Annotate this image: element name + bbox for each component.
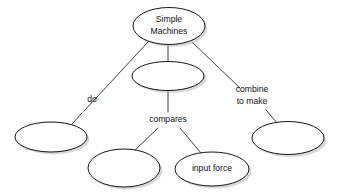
node-input-force[interactable]: input force [175, 152, 249, 186]
node-simple-machines-label-line2: Machines [151, 26, 188, 36]
connector-compares-to-bottom-left [133, 128, 158, 152]
node-simple-machines-label-line1: Simple [156, 14, 182, 24]
node-center-blank-shape[interactable] [132, 62, 204, 91]
node-right-blank-shape[interactable] [252, 122, 324, 155]
node-right-blank[interactable] [252, 122, 324, 155]
edge-label-do: do [87, 94, 97, 104]
node-left-blank[interactable] [15, 122, 87, 152]
node-bottom-left-blank[interactable] [88, 149, 160, 187]
edge-label-combine-to-make-line1: combine [236, 84, 269, 94]
diagram-canvas: Simple Machines input force [0, 0, 342, 195]
node-input-force-label: input force [192, 163, 232, 173]
edge-label-compares: compares [149, 114, 187, 124]
node-center-blank[interactable] [132, 62, 204, 91]
connector-do-tail [72, 113, 82, 124]
node-left-blank-shape[interactable] [15, 122, 87, 152]
node-simple-machines[interactable]: Simple Machines [133, 8, 205, 45]
concept-map-diagram: Simple Machines input force [0, 0, 342, 195]
node-layer: Simple Machines input force [15, 8, 324, 188]
node-bottom-left-blank-shape[interactable] [88, 149, 160, 187]
edge-label-combine-to-make-line2: to make [237, 96, 268, 106]
connector-compares-to-input-force [180, 128, 201, 153]
